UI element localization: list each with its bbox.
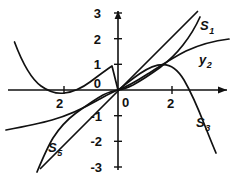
curve-s3 (15, 42, 217, 153)
curve-label-y2: y2 (198, 52, 212, 70)
x-axis-arrow-icon (218, 87, 227, 94)
curve-label-s1: S1 (200, 18, 214, 36)
y-tick-label-3: 3 (94, 6, 101, 21)
y-tick-label-2: 2 (94, 32, 101, 47)
origin-label: 0 (122, 95, 129, 110)
y-tick-label-neg2: -2 (90, 134, 102, 149)
y-axis-zero-label: 0 (94, 76, 101, 91)
x-tick-label-pos2: 2 (167, 96, 174, 111)
y-tick-label-1: 1 (94, 57, 101, 72)
plot-canvas: 2 2 3 2 1 0 -1 -2 -3 0 S1 y2 S3 S5 (0, 0, 238, 176)
x-tick-label-neg2: 2 (56, 96, 63, 111)
y-axis-arrow-icon (115, 11, 122, 19)
curve-label-s5: S5 (48, 140, 63, 158)
curve-label-s3: S3 (196, 115, 210, 133)
y-tick-label-neg1: -1 (90, 109, 102, 124)
taylor-polynomial-plot: 2 2 3 2 1 0 -1 -2 -3 0 S1 y2 S3 S5 (0, 0, 238, 176)
y-tick-label-neg3: -3 (90, 160, 102, 175)
